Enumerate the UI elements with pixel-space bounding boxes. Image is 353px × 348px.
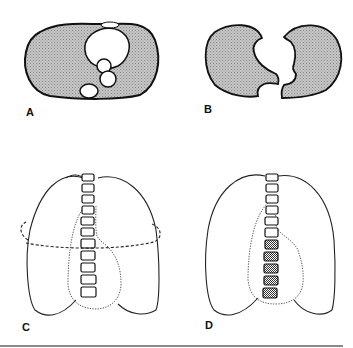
vertebral-column bbox=[81, 174, 96, 297]
panel-d-frontal bbox=[206, 174, 335, 315]
anatomy-figure bbox=[0, 0, 353, 348]
panel-b-cross-section bbox=[206, 25, 342, 98]
right-lung-outline bbox=[278, 176, 335, 315]
panel-label-a: A bbox=[26, 106, 34, 118]
left-lung-outline bbox=[27, 176, 84, 315]
left-lung-outline bbox=[206, 175, 265, 315]
panel-a-cross-section bbox=[25, 22, 158, 99]
vertebral-column bbox=[263, 174, 278, 298]
right-lung-section bbox=[282, 25, 342, 98]
panel-c-frontal bbox=[21, 174, 160, 315]
panel-label-b: B bbox=[204, 103, 212, 115]
panel-label-d: D bbox=[205, 319, 213, 331]
panel-label-c: C bbox=[22, 321, 30, 333]
bottom-rule bbox=[0, 345, 343, 347]
right-lung-outline bbox=[98, 177, 159, 314]
left-lung-section bbox=[206, 25, 279, 97]
